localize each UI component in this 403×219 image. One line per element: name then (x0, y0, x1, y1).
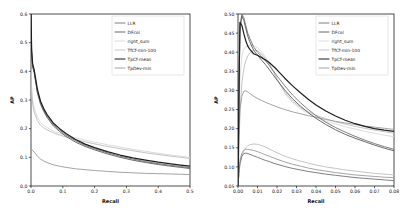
x-tick-label: 0.01 (252, 189, 262, 194)
x-tick-label: 0.08 (389, 189, 399, 194)
y-axis-title: AP (213, 96, 219, 104)
y-tick-label: 0.2 (20, 126, 27, 131)
y-tick-label: 0.6 (20, 12, 27, 17)
x-tick-label: 0.2 (91, 189, 98, 194)
legend-label-tpdev-min: TpDev-min (127, 66, 152, 71)
legend-label-tfcf-min-100: TfCf-min-100 (331, 48, 361, 53)
x-tick-label: 0.03 (291, 189, 301, 194)
y-tick-label: 0.5 (20, 40, 27, 45)
x-tick-label: 0.4 (155, 189, 162, 194)
legend-label-dfcol: DFcol (128, 30, 140, 35)
y-tick-label: 0.4 (20, 69, 27, 74)
legend-label-llr: LLR (332, 21, 340, 26)
x-tick-label: 0.06 (350, 189, 360, 194)
y-tick-label: 0.35 (224, 69, 234, 74)
y-tick-label: 0.30 (224, 88, 234, 93)
legend-label-tpcf-mean: TpCf-mean (127, 57, 152, 62)
chart-panel-right: 0.000.010.020.030.040.050.060.070.080.05… (202, 0, 403, 219)
curve-tpdev-min-low (238, 149, 394, 186)
y-tick-label: 0.20 (224, 126, 234, 131)
y-axis-title: AP (9, 96, 15, 104)
y-tick-label: 0.0 (20, 184, 27, 189)
x-tick-label: 0.3 (123, 189, 130, 194)
figure-two-panel-ap-recall: 0.00.10.20.30.40.50.00.10.20.30.40.50.6R… (0, 0, 403, 219)
y-tick-label: 0.25 (224, 107, 234, 112)
y-tick-label: 0.50 (224, 12, 234, 17)
x-tick-label: 0.0 (27, 189, 34, 194)
y-tick-label: 0.3 (20, 98, 27, 103)
legend-label-tpcf-mean: TpCf-mean (331, 57, 356, 62)
curve-right_sum (31, 70, 190, 157)
y-tick-label: 0.05 (224, 184, 234, 189)
chart-left-svg: 0.00.10.20.30.40.50.00.10.20.30.40.50.6R… (0, 0, 201, 219)
legend-label-tfcf-min-100: TfCf-min-100 (127, 48, 157, 53)
y-tick-label: 0.45 (224, 31, 234, 36)
y-tick-label: 0.1 (20, 155, 27, 160)
x-tick-label: 0.04 (311, 189, 321, 194)
legend-label-dfcol: DFcol (332, 30, 344, 35)
y-tick-label: 0.40 (224, 50, 234, 55)
x-tick-label: 0.07 (369, 189, 379, 194)
curve-tfcf-min-100-low (238, 144, 394, 186)
chart-right-svg: 0.000.010.020.030.040.050.060.070.080.05… (202, 0, 403, 219)
x-tick-label: 0.1 (59, 189, 66, 194)
legend-label-tpdev-min: TpDev-min (331, 66, 356, 71)
legend-label-llr: LLR (128, 21, 136, 26)
x-axis-title: Recall (307, 198, 324, 204)
x-tick-label: 0.00 (233, 189, 243, 194)
chart-panel-left: 0.00.10.20.30.40.50.00.10.20.30.40.50.6R… (0, 0, 201, 219)
x-tick-label: 0.02 (272, 189, 282, 194)
x-tick-label: 0.05 (330, 189, 340, 194)
x-tick-label: 0.5 (186, 189, 193, 194)
x-axis-title: Recall (102, 198, 119, 204)
y-tick-label: 0.15 (224, 145, 234, 150)
y-tick-label: 0.10 (224, 165, 234, 170)
